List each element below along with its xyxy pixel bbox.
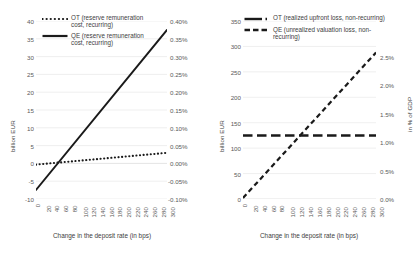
x-tick-label: 0 — [34, 204, 41, 207]
y2-tick-label: 0.10% — [170, 124, 188, 131]
y2-tick-label: 0.5% — [380, 167, 394, 174]
y-tick-label: 350 — [219, 18, 241, 25]
x-tick-label: 260 — [151, 207, 158, 217]
y-axis-title-right: in % of GDP — [406, 97, 413, 132]
x-axis-title: Change in the deposit rate (in bps) — [233, 232, 385, 239]
x-tick-label: 200 — [333, 207, 340, 217]
y-tick-label: 30 — [12, 53, 34, 60]
legend-label: OT (reserve remuneration cost, recurring… — [71, 14, 145, 29]
y-tick-label: 35 — [12, 35, 34, 42]
x-tick-label: 160 — [315, 207, 322, 217]
x-tick-label: 140 — [99, 207, 106, 217]
y-tick-label: 20 — [12, 89, 34, 96]
y-tick-label: 250 — [219, 68, 241, 75]
y2-tick-label: 0.00% — [170, 160, 188, 167]
x-tick-label: 120 — [298, 207, 305, 217]
y2-tick-label: 2.0% — [380, 82, 394, 89]
x-tick-label: 40 — [261, 205, 268, 212]
y2-tick-label: 0.25% — [170, 71, 188, 78]
x-tick-label: 120 — [90, 207, 97, 217]
legend-key-solid-icon — [244, 15, 270, 23]
legend-label: QE (reserve remuneration cost, recurring… — [71, 32, 145, 47]
x-tick-label: 40 — [53, 205, 60, 212]
x-tick-label: 300 — [168, 207, 175, 217]
x-tick-label: 240 — [142, 207, 149, 217]
y2-tick-label: 0.40% — [170, 18, 188, 25]
x-tick-label: 300 — [377, 207, 384, 217]
y2-tick-label: 0.30% — [170, 53, 188, 60]
y-tick-label: 15 — [12, 107, 34, 114]
y-tick-label: 50 — [219, 170, 241, 177]
y2-tick-label: 0.15% — [170, 107, 188, 114]
x-tick-label: 100 — [289, 207, 296, 217]
x-tick-label: 60 — [62, 205, 69, 212]
x-tick-label: 280 — [159, 207, 166, 217]
y-tick-label: -10 — [12, 196, 34, 203]
x-tick-label: 240 — [351, 207, 358, 217]
y2-tick-label: -0.05% — [168, 178, 188, 185]
plot-svg-right — [243, 21, 376, 199]
x-tick-label: 220 — [133, 207, 140, 217]
legend-item[interactable]: OT (realized upfront loss, non-recurring… — [244, 14, 389, 23]
y-tick-label: 25 — [12, 71, 34, 78]
x-tick-label: 220 — [342, 207, 349, 217]
y-tick-label: 0 — [12, 160, 34, 167]
x-tick-label: 200 — [125, 207, 132, 217]
series-line-qe-nonrecurring — [243, 53, 376, 198]
x-tick-label: 140 — [307, 207, 314, 217]
gridlines-right — [243, 21, 376, 199]
y2-tick-label: -0.10% — [168, 196, 188, 203]
x-tick-label: 100 — [81, 207, 88, 217]
x-axis-title: Change in the deposit rate (in bps) — [26, 232, 178, 239]
series-line-ot-recurring — [36, 153, 167, 165]
y2-tick-label: 0.0% — [380, 196, 394, 203]
y-tick-label: 0 — [219, 196, 241, 203]
y-tick-label: 40 — [12, 18, 34, 25]
x-tick-label: 280 — [369, 207, 376, 217]
y-tick-label: 100 — [219, 145, 241, 152]
plot-area-right — [243, 21, 376, 199]
y2-tick-label: 1.5% — [380, 110, 394, 117]
x-tick-label: 260 — [360, 207, 367, 217]
legend-item[interactable]: OT (reserve remuneration cost, recurring… — [42, 14, 145, 29]
legend-label: OT (realized upfront loss, non-recurring… — [273, 14, 385, 21]
y-tick-label: -5 — [12, 178, 34, 185]
chart-panel-left: billion EUR 40 35 30 25 20 15 10 5 0 -5 … — [0, 0, 208, 259]
figure-two-panel-line-charts: billion EUR 40 35 30 25 20 15 10 5 0 -5 … — [0, 0, 416, 259]
y-tick-label: 200 — [219, 94, 241, 101]
x-tick-label: 80 — [71, 205, 78, 212]
y2-tick-label: 0.20% — [170, 89, 188, 96]
x-tick-label: 0 — [241, 204, 248, 207]
legend-key-solid-icon — [42, 32, 68, 40]
legend-item[interactable]: QE (reserve remuneration cost, recurring… — [42, 32, 145, 47]
legend-key-dotted-icon — [42, 15, 68, 23]
legend-right: OT (realized upfront loss, non-recurring… — [244, 14, 389, 43]
y2-tick-label: 0.05% — [170, 142, 188, 149]
y-tick-label: 10 — [12, 124, 34, 131]
y2-tick-label: 2.5% — [380, 53, 394, 60]
y2-tick-label: 1.0% — [380, 139, 394, 146]
x-tick-label: 80 — [278, 205, 285, 212]
x-tick-label: 180 — [116, 207, 123, 217]
chart-panel-right: billion EUR in % of GDP 350 300 250 200 … — [208, 0, 416, 259]
y-tick-label: 300 — [219, 43, 241, 50]
y2-tick-label: 0.35% — [170, 35, 188, 42]
x-tick-label: 160 — [107, 207, 114, 217]
y-tick-label: 150 — [219, 119, 241, 126]
legend-key-dashed-icon — [244, 26, 270, 34]
legend-item[interactable]: QE (unrealized valuation loss, non-recur… — [244, 26, 389, 41]
y-tick-label: 5 — [12, 142, 34, 149]
legend-left: OT (reserve remuneration cost, recurring… — [42, 14, 145, 50]
x-tick-label: 20 — [45, 205, 52, 212]
legend-label: QE (unrealized valuation loss, non-recur… — [273, 26, 389, 41]
x-tick-label: 60 — [269, 205, 276, 212]
x-tick-label: 180 — [324, 207, 331, 217]
x-tick-label: 20 — [252, 205, 259, 212]
